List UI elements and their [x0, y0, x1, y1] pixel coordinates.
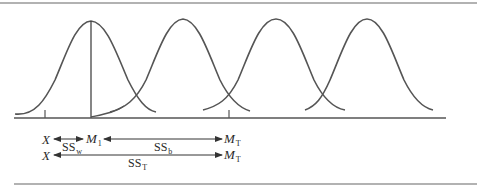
- normal-curve-group-3: [203, 19, 345, 110]
- ss-within-main: SS: [62, 140, 75, 154]
- ss-between-sub: b: [168, 147, 172, 156]
- label-mt-main-row1: M: [224, 131, 235, 146]
- label-score-x-row2: X: [42, 149, 50, 162]
- ss-between-main: SS: [154, 140, 167, 154]
- label-ss-total: SST: [128, 157, 147, 172]
- ss-total-sub: T: [142, 163, 147, 172]
- label-mt-main-row2: M: [224, 147, 235, 162]
- ss-total-main: SS: [128, 156, 141, 170]
- label-m1-main: M: [86, 131, 97, 146]
- label-score-x-row1: X: [42, 133, 50, 146]
- ss-partition-diagram: X M1 MT SSw SSb X MT SST: [0, 0, 477, 188]
- label-mt-sub-row1: T: [236, 139, 241, 148]
- label-group-1-mean: M1: [86, 132, 102, 148]
- group-1-tail-segment: [91, 106, 124, 117]
- label-m1-sub: 1: [98, 139, 102, 148]
- label-ss-between: SSb: [154, 141, 172, 156]
- label-grand-mean-row1: MT: [224, 132, 241, 148]
- normal-curve-group-1: [15, 21, 156, 114]
- label-grand-mean-row2: MT: [224, 148, 241, 164]
- normal-curve-group-2: [110, 19, 250, 112]
- ss-within-sub: w: [76, 147, 82, 156]
- label-ss-within: SSw: [62, 141, 82, 156]
- label-mt-sub-row2: T: [236, 155, 241, 164]
